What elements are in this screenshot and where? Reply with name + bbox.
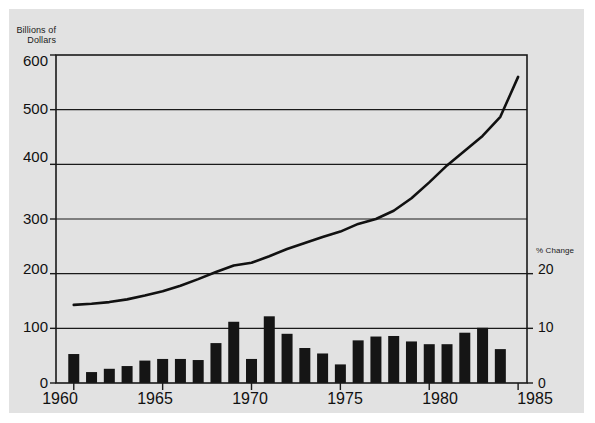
bar-1977 [370, 337, 381, 383]
bar-1960 [68, 354, 79, 383]
bar-1961 [86, 372, 97, 383]
bar-1971 [264, 316, 275, 383]
bar-1978 [388, 336, 399, 383]
bar-1975 [335, 364, 346, 383]
bars-group [68, 316, 506, 383]
line-series-path [74, 77, 518, 305]
bar-1968 [210, 343, 221, 383]
bar-1982 [459, 333, 470, 383]
bar-1963 [122, 366, 133, 383]
bar-1980 [424, 344, 435, 383]
bar-1970 [246, 359, 257, 383]
bar-1965 [157, 359, 168, 383]
bar-1979 [406, 341, 417, 383]
bar-1976 [353, 340, 364, 383]
bar-1972 [282, 334, 293, 383]
bar-1967 [193, 360, 204, 383]
bar-1983 [477, 328, 488, 383]
bar-1974 [317, 353, 328, 383]
chart-page: Billions of Dollars % Change 600 500 400… [0, 0, 595, 423]
bar-1962 [104, 369, 115, 383]
bar-1966 [175, 359, 186, 383]
bar-1964 [139, 361, 150, 383]
bar-1984 [495, 349, 506, 383]
bar-1969 [228, 322, 239, 383]
bar-1981 [442, 344, 453, 383]
gridlines-group [56, 110, 527, 329]
bar-1973 [299, 348, 310, 383]
chart-plot-area [0, 0, 595, 423]
